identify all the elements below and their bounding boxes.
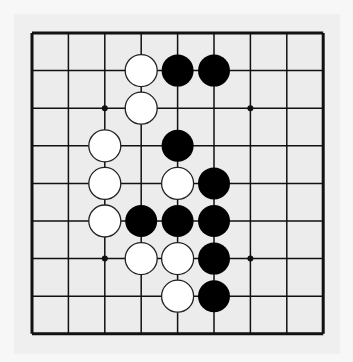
black-stone bbox=[198, 55, 230, 87]
white-stone bbox=[162, 167, 194, 199]
black-stone bbox=[198, 167, 230, 199]
black-stone bbox=[125, 205, 157, 237]
white-stone bbox=[89, 167, 121, 199]
star-point bbox=[247, 105, 253, 111]
black-stone bbox=[198, 243, 230, 275]
white-stone bbox=[89, 130, 121, 162]
black-stone bbox=[198, 280, 230, 312]
star-point bbox=[102, 105, 108, 111]
black-stone bbox=[162, 130, 194, 162]
white-stone bbox=[125, 92, 157, 124]
white-stone bbox=[125, 55, 157, 87]
white-stone bbox=[125, 243, 157, 275]
black-stone bbox=[162, 205, 194, 237]
white-stone bbox=[89, 205, 121, 237]
star-point bbox=[247, 256, 253, 262]
black-stone bbox=[198, 205, 230, 237]
star-point bbox=[102, 256, 108, 262]
white-stone bbox=[162, 243, 194, 275]
white-stone bbox=[162, 280, 194, 312]
go-board bbox=[0, 0, 353, 362]
black-stone bbox=[162, 55, 194, 87]
